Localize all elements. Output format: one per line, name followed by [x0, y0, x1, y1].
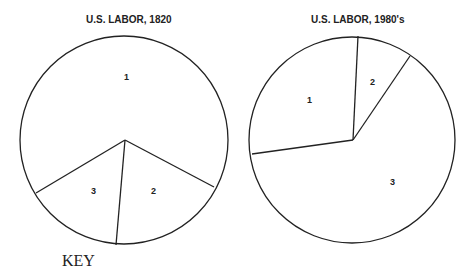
right-slice-3-label: 3	[390, 177, 395, 187]
pie-charts	[0, 0, 469, 273]
right-slice-1-label: 1	[307, 95, 312, 105]
left-slice-1-label: 1	[124, 72, 129, 82]
left-pie	[20, 36, 228, 245]
left-slice-3-label: 3	[91, 186, 96, 196]
key-heading: KEY	[62, 252, 95, 270]
right-pie	[249, 36, 455, 243]
left-slice-2-label: 2	[151, 186, 156, 196]
right-slice-2-label: 2	[370, 77, 375, 87]
